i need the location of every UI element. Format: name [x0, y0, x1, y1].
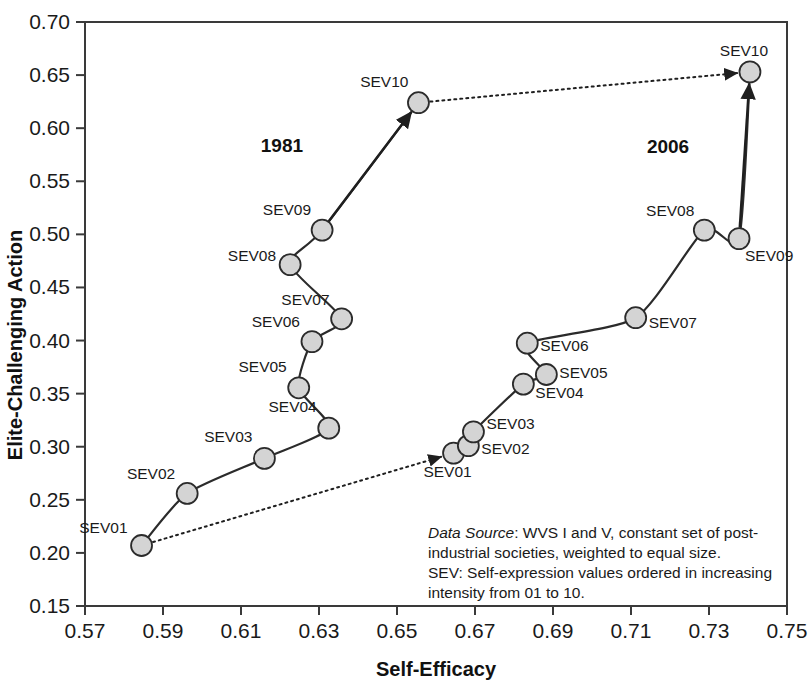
point-label-1981-SEV03: SEV03 [204, 428, 252, 445]
note-emphasis: Data Source [428, 524, 515, 541]
y-tick-label-10: 0.20 [29, 541, 70, 564]
x-tick-label-3: 0.63 [299, 619, 340, 642]
series-point-labels: SEV01SEV02SEV03SEV04SEV05SEV06SEV07SEV08… [79, 42, 793, 537]
y-tick-label-11: 0.15 [29, 594, 70, 617]
x-tick-label-7: 0.71 [611, 619, 652, 642]
x-tick-label-1: 0.59 [143, 619, 184, 642]
data-point-2006-SEV05 [536, 364, 557, 385]
x-tick-label-2: 0.61 [221, 619, 262, 642]
data-point-1981-SEV05 [288, 377, 309, 398]
chart-container: 0.570.590.610.630.650.670.690.710.730.75… [0, 0, 810, 698]
point-label-1981-SEV09: SEV09 [263, 201, 311, 218]
y-tick-label-3: 0.55 [29, 169, 70, 192]
y-tick-label-4: 0.50 [29, 222, 70, 245]
note-line-1: Data Source: WVS I and V, constant set o… [428, 524, 758, 541]
data-point-1981-SEV01 [131, 535, 152, 556]
data-point-1981-SEV07 [331, 308, 352, 329]
x-axis-title: Self-Efficacy [376, 658, 497, 680]
point-label-1981-SEV04: SEV04 [268, 398, 317, 415]
data-point-1981-SEV08 [280, 254, 301, 275]
y-axis-title: Elite-Challenging Action [4, 230, 26, 460]
data-point-1981-SEV10 [408, 92, 429, 113]
series-1981-final-arrow [329, 112, 411, 221]
sev10-transition [430, 73, 737, 101]
y-axis-ticks [76, 22, 85, 606]
point-label-1981-SEV08: SEV08 [228, 247, 276, 264]
y-axis-tick-labels: 0.700.650.600.550.500.450.400.350.300.25… [29, 10, 70, 617]
point-label-2006-SEV09: SEV09 [745, 247, 793, 264]
note-line-3: SEV: Self-expression values ordered in i… [428, 564, 772, 581]
x-tick-label-0: 0.57 [65, 619, 106, 642]
y-tick-label-8: 0.30 [29, 435, 70, 458]
data-point-2006-SEV07 [625, 307, 646, 328]
series-name-labels: 19812006 [261, 135, 689, 157]
series-label-1981: 1981 [261, 135, 304, 156]
y-tick-label-0: 0.70 [29, 10, 70, 33]
y-tick-label-5: 0.45 [29, 275, 70, 298]
point-label-2006-SEV03: SEV03 [486, 415, 534, 432]
x-tick-label-9: 0.75 [767, 619, 808, 642]
point-label-2006-SEV06: SEV06 [540, 337, 588, 354]
note-line-4: intensity from 01 to 10. [428, 584, 585, 601]
x-axis-tick-labels: 0.570.590.610.630.650.670.690.710.730.75 [65, 619, 808, 642]
point-label-2006-SEV02: SEV02 [481, 440, 529, 457]
x-tick-label-6: 0.69 [533, 619, 574, 642]
data-point-1981-SEV03 [254, 448, 275, 469]
point-label-2006-SEV04: SEV04 [535, 384, 584, 401]
point-label-2006-SEV01: SEV01 [423, 463, 471, 480]
point-label-2006-SEV10: SEV10 [720, 42, 769, 59]
y-tick-label-2: 0.60 [29, 116, 70, 139]
series-label-2006: 2006 [647, 136, 689, 157]
y-tick-label-9: 0.25 [29, 488, 70, 511]
point-label-1981-SEV06: SEV06 [252, 313, 300, 330]
data-point-1981-SEV02 [177, 483, 198, 504]
series-2006-final-arrow [740, 84, 749, 228]
series-curve-2006 [454, 72, 750, 453]
y-tick-label-6: 0.40 [29, 329, 70, 352]
data-point-1981-SEV06 [301, 331, 322, 352]
data-point-2006-SEV10 [739, 61, 760, 82]
data-point-2006-SEV04 [513, 374, 534, 395]
note-line-2: industrial societies, weighted to equal … [428, 544, 721, 561]
x-axis-ticks [85, 606, 787, 615]
x-tick-label-4: 0.65 [377, 619, 418, 642]
note-line-1-rest: : WVS I and V, constant set of post- [514, 524, 758, 541]
x-tick-label-8: 0.73 [689, 619, 730, 642]
y-tick-label-7: 0.35 [29, 382, 70, 405]
point-label-2006-SEV07: SEV07 [649, 314, 697, 331]
data-point-2006-SEV06 [517, 333, 538, 354]
point-label-1981-SEV01: SEV01 [79, 519, 127, 536]
point-label-1981-SEV02: SEV02 [127, 465, 175, 482]
scatter-line-chart: 0.570.590.610.630.650.670.690.710.730.75… [0, 0, 810, 698]
data-point-1981-SEV04 [318, 418, 339, 439]
x-tick-label-5: 0.67 [455, 619, 496, 642]
data-point-1981-SEV09 [312, 220, 333, 241]
point-label-1981-SEV10: SEV10 [360, 73, 409, 90]
point-label-2006-SEV05: SEV05 [559, 364, 607, 381]
point-label-2006-SEV08: SEV08 [646, 202, 694, 219]
data-point-2006-SEV08 [694, 220, 715, 241]
point-label-1981-SEV05: SEV05 [238, 358, 286, 375]
y-tick-label-1: 0.65 [29, 63, 70, 86]
data-source-note: Data Source: WVS I and V, constant set o… [428, 524, 772, 601]
point-label-1981-SEV07: SEV07 [281, 291, 329, 308]
